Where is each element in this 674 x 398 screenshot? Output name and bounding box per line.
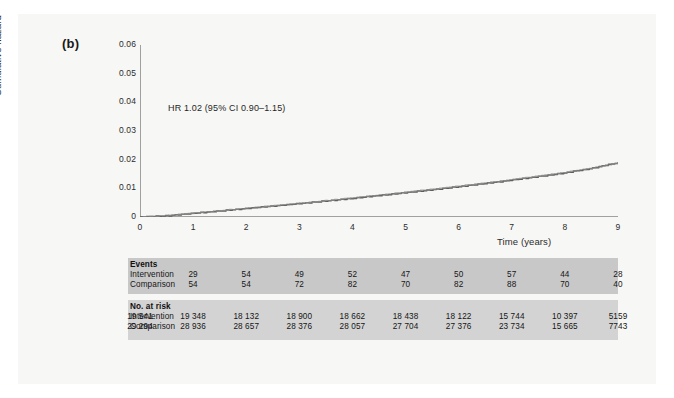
risk-cell: 15 665 — [544, 322, 586, 331]
x-tick-label: 8 — [556, 222, 574, 232]
risk-cell: 18 438 — [385, 312, 427, 321]
risk-cell: 54 — [225, 270, 267, 279]
risk-cell: 54 — [172, 280, 214, 289]
y-axis-ticks: 00.010.020.030.040.050.06 — [92, 45, 136, 217]
risk-table: EventsIntervention295449524750574428Comp… — [128, 258, 618, 342]
risk-cell: 18 900 — [278, 312, 320, 321]
risk-cell: 28 376 — [278, 322, 320, 331]
risk-cell: 57 — [491, 270, 533, 279]
x-tick-label: 7 — [503, 222, 521, 232]
x-tick-label: 0 — [131, 222, 149, 232]
plot-area — [140, 45, 618, 217]
risk-row-label: Intervention — [130, 270, 174, 279]
risk-cell: 70 — [385, 280, 427, 289]
risk-cell: 44 — [544, 270, 586, 279]
figure-page: (b) 00.010.020.030.040.050.06 Cumulative… — [0, 0, 674, 398]
risk-group-title: No. at risk — [130, 302, 171, 311]
x-axis-ticks: 0123456789 — [140, 222, 618, 236]
risk-cell: 82 — [438, 280, 480, 289]
x-tick-label: 4 — [343, 222, 361, 232]
risk-cell: 18 662 — [331, 312, 373, 321]
x-tick-label: 6 — [450, 222, 468, 232]
axes — [140, 45, 618, 217]
risk-cell: 88 — [491, 280, 533, 289]
risk-cell: 28 057 — [331, 322, 373, 331]
risk-cell: 27 376 — [438, 322, 480, 331]
series-lines — [140, 162, 618, 217]
risk-cell: 29 — [172, 270, 214, 279]
risk-cell: 5159 — [597, 312, 639, 321]
risk-cell: 54 — [225, 280, 267, 289]
risk-cell: 19 348 — [172, 312, 214, 321]
y-tick-label: 0.04 — [119, 96, 136, 106]
risk-cell: 27 704 — [385, 322, 427, 331]
y-tick-label: 0.05 — [119, 68, 136, 78]
risk-row-label: Comparison — [130, 280, 175, 289]
risk-cell: 49 — [278, 270, 320, 279]
hazard-ratio-annotation: HR 1.02 (95% CI 0.90–1.15) — [168, 103, 285, 113]
risk-cell: 7743 — [597, 322, 639, 331]
series-line-comparison — [140, 163, 618, 217]
y-tick-label: 0.03 — [119, 125, 136, 135]
y-tick-label: 0.02 — [119, 154, 136, 164]
x-tick-label: 9 — [609, 222, 627, 232]
y-axis-title: Cumulative hazard — [0, 15, 3, 96]
y-tick-label: 0 — [131, 211, 136, 221]
x-tick-label: 2 — [237, 222, 255, 232]
y-tick-label: 0.01 — [119, 182, 136, 192]
x-axis-title: Time (years) — [497, 236, 551, 247]
x-tick-label: 3 — [290, 222, 308, 232]
risk-cell: 40 — [597, 280, 639, 289]
risk-cell: 50 — [438, 270, 480, 279]
risk-cell: 70 — [544, 280, 586, 289]
risk-cell: 28 — [597, 270, 639, 279]
series-line-intervention — [140, 162, 618, 217]
risk-cell: 72 — [278, 280, 320, 289]
risk-cell: 28 657 — [225, 322, 267, 331]
risk-cell: 23 734 — [491, 322, 533, 331]
cumulative-hazard-plot — [140, 45, 618, 217]
risk-cell: 82 — [331, 280, 373, 289]
risk-cell: 47 — [385, 270, 427, 279]
panel-label: (b) — [62, 36, 79, 51]
risk-cell: 29 294 — [119, 322, 161, 331]
risk-cell: 19 541 — [119, 312, 161, 321]
risk-cell: 18 122 — [438, 312, 480, 321]
risk-cell: 15 744 — [491, 312, 533, 321]
risk-cell: 18 132 — [225, 312, 267, 321]
risk-cell: 10 397 — [544, 312, 586, 321]
risk-group-title: Events — [130, 260, 157, 269]
risk-cell: 52 — [331, 270, 373, 279]
x-tick-label: 5 — [397, 222, 415, 232]
y-tick-label: 0.06 — [119, 39, 136, 49]
risk-cell: 28 936 — [172, 322, 214, 331]
x-tick-label: 1 — [184, 222, 202, 232]
